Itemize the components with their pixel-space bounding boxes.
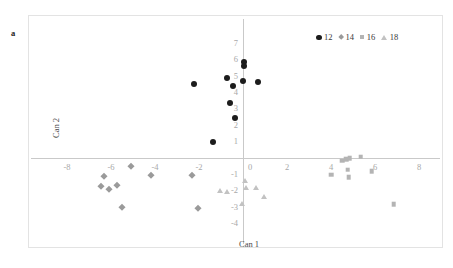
data-point-12 [210, 139, 216, 145]
data-point-12 [230, 83, 236, 89]
x-tick-label: 8 [417, 163, 421, 172]
x-tick-label: -8 [63, 163, 70, 172]
y-tick-label: 1 [234, 137, 238, 146]
y-tick-label: 3 [234, 104, 238, 113]
y-tick-label: 2 [234, 121, 238, 130]
data-point-18 [224, 189, 230, 194]
data-point-18 [242, 178, 248, 183]
data-point-14 [106, 185, 112, 191]
data-point-18 [239, 201, 245, 206]
legend-label: 16 [367, 33, 376, 42]
data-point-12 [232, 115, 238, 121]
data-point-18 [253, 185, 259, 190]
legend-label: 14 [345, 33, 354, 42]
data-point-12 [240, 78, 246, 84]
data-point-16 [346, 175, 351, 180]
legend: 12141618 [316, 33, 398, 42]
data-point-16 [345, 167, 350, 172]
legend-label: 18 [390, 33, 399, 42]
diamond-marker-icon [338, 34, 344, 40]
data-point-14 [98, 183, 104, 189]
circle-marker-icon [316, 35, 322, 41]
y-tick-label: 6 [234, 55, 238, 64]
data-point-12 [241, 63, 247, 69]
data-point-14 [119, 203, 125, 209]
scatter-plot-figure: a -8-6-4-2024687654321-1-2-3-4 Can 1 Can… [0, 0, 453, 268]
x-tick-label: -2 [195, 163, 202, 172]
data-point-14 [195, 205, 201, 211]
y-tick-label: 7 [234, 39, 238, 48]
y-axis-line [243, 19, 244, 244]
legend-entry-12[interactable]: 12 [316, 33, 333, 42]
data-point-16 [369, 169, 374, 174]
data-point-12 [224, 75, 230, 81]
square-marker-icon [360, 35, 364, 39]
x-tick-label: -6 [107, 163, 114, 172]
y-axis-title: Can 2 [52, 118, 61, 138]
data-point-18 [217, 188, 223, 193]
legend-entry-18[interactable]: 18 [381, 33, 398, 42]
legend-entry-16[interactable]: 16 [360, 33, 375, 42]
y-tick-label: -1 [231, 170, 238, 179]
data-point-18 [243, 185, 249, 190]
x-tick-label: 0 [248, 163, 252, 172]
data-point-14 [189, 171, 195, 177]
x-tick-label: 2 [285, 163, 289, 172]
x-axis-line [31, 158, 440, 159]
x-tick-label: 4 [329, 163, 333, 172]
data-point-14 [147, 172, 153, 178]
y-tick-label: 4 [234, 88, 238, 97]
data-point-16 [347, 156, 352, 161]
data-point-12 [255, 79, 261, 85]
data-point-16 [329, 172, 334, 177]
data-point-14 [128, 163, 134, 169]
x-axis-title: Can 1 [239, 240, 259, 249]
data-point-12 [227, 100, 233, 106]
data-point-14 [113, 182, 119, 188]
triangle-marker-icon [381, 35, 387, 40]
data-point-18 [261, 194, 267, 199]
y-tick-label: 5 [234, 72, 238, 81]
y-tick-label: -4 [231, 219, 238, 228]
data-point-12 [191, 81, 197, 87]
data-point-16 [391, 202, 396, 207]
x-tick-label: -4 [151, 163, 158, 172]
legend-entry-14[interactable]: 14 [339, 33, 354, 42]
y-tick-label: -2 [231, 186, 238, 195]
y-tick-label: -3 [231, 202, 238, 211]
data-point-14 [101, 173, 107, 179]
data-point-16 [358, 154, 363, 159]
legend-label: 12 [324, 33, 333, 42]
